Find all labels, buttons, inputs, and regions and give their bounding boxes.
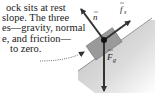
svg-text:F: F bbox=[106, 52, 113, 62]
figure-root: ock sits at rest slope. The three es—gra… bbox=[0, 0, 155, 93]
center-dot bbox=[101, 37, 107, 43]
dotted-pointer-arrow bbox=[40, 52, 84, 61]
incline-surface bbox=[78, 18, 155, 93]
label-friction: f s bbox=[120, 3, 127, 15]
svg-text:n: n bbox=[93, 12, 98, 22]
svg-text:g: g bbox=[113, 57, 116, 63]
incline-diagram: n f s F g bbox=[0, 0, 155, 93]
svg-text:s: s bbox=[124, 9, 127, 15]
label-normal: n bbox=[93, 12, 98, 22]
